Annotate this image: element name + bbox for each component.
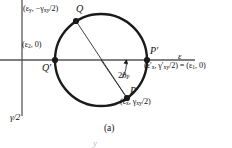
axis-label-epsilon: ε xyxy=(178,52,181,61)
point-label-Pprime: P′ xyxy=(150,46,158,56)
point-label-Q: Q xyxy=(76,4,83,14)
point-label-Qprime: Q′ xyxy=(42,63,51,73)
point-label-P: P xyxy=(130,86,136,96)
point-marker-Qprime xyxy=(52,57,58,63)
point-label-Pprime-coordinates-equation: (ε′x, γ′xy/2) = (ε1, 0) xyxy=(144,62,206,71)
figure-canvas xyxy=(0,0,232,148)
axis-label-gamma-over-2: γ/2 xyxy=(10,113,20,122)
figure-caption: (a) xyxy=(104,124,114,134)
point-marker-Q xyxy=(73,18,79,24)
cropped-glyph-below: y xyxy=(93,139,97,148)
point-label-Qprime-coordinates: (ε2, 0) xyxy=(22,41,41,50)
point-label-Q-coordinates: (εy, −γxy/2) xyxy=(23,5,58,14)
angle-label-2theta-p: 2θP xyxy=(118,71,129,81)
point-label-P-coordinates: (εx, γxy/2) xyxy=(120,98,151,107)
mohr-circle-figure: (εy, −γxy/2) Q (ε2, 0) Q′ P′ ε (ε′x, γ′x… xyxy=(0,0,232,148)
